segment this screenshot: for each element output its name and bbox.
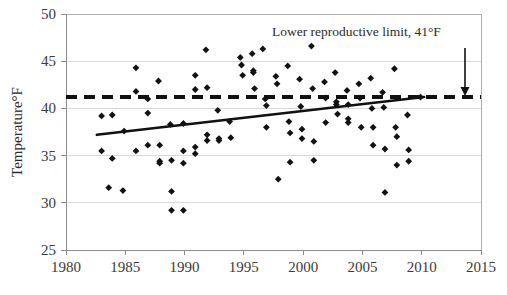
lower-reproductive-limit-annotation-text: Lower reproductive limit, 41°F: [272, 24, 441, 39]
y-tick-label-25: 25: [41, 242, 56, 258]
y-tick-label-30: 30: [41, 195, 56, 211]
y-tick-label-35: 35: [41, 148, 56, 164]
chart-figure: 19801985199019952000200520102015 2530354…: [0, 0, 507, 295]
x-tick-label-2015: 2015: [466, 259, 496, 275]
x-tick-label-2005: 2005: [347, 259, 377, 275]
temperature-scatter-chart: 19801985199019952000200520102015 2530354…: [0, 0, 507, 295]
chart-background: [0, 0, 507, 295]
y-tick-label-45: 45: [41, 53, 56, 69]
x-tick-label-2010: 2010: [407, 259, 437, 275]
y-tick-label-40: 40: [41, 100, 56, 116]
x-tick-label-1990: 1990: [170, 259, 200, 275]
x-tick-label-2000: 2000: [288, 259, 318, 275]
y-axis-title: Temperature°F: [9, 87, 25, 177]
x-tick-label-1980: 1980: [51, 259, 81, 275]
x-tick-label-1995: 1995: [229, 259, 259, 275]
y-tick-label-50: 50: [41, 6, 56, 22]
x-tick-label-1985: 1985: [110, 259, 140, 275]
